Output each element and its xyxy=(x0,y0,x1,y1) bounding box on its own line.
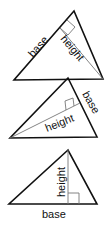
triangle-2: base height xyxy=(10,78,103,138)
triangle-diagrams: base height base height height base xyxy=(0,0,109,232)
triangle-3-height-label: height xyxy=(55,167,67,197)
triangle-3-outline xyxy=(9,150,97,204)
triangle-2-height-label: height xyxy=(43,111,75,133)
triangle-3-right-angle-marker xyxy=(68,193,79,204)
triangle-1-height-label: height xyxy=(58,33,86,64)
triangle-1: base height xyxy=(14,11,103,80)
triangle-3: height base xyxy=(9,150,97,220)
triangle-1-outline xyxy=(14,11,103,80)
triangle-2-base-label: base xyxy=(80,89,102,116)
triangle-3-base-label: base xyxy=(42,208,66,220)
triangle-1-base-label: base xyxy=(26,34,51,60)
